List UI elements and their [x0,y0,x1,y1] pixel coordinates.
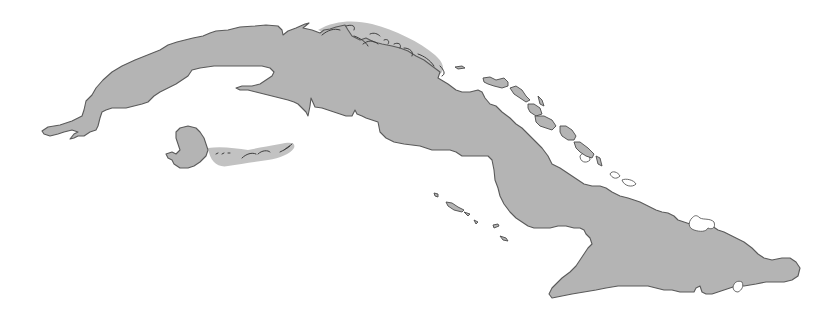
north-coast-lagoon-1 [610,172,620,178]
main-island [42,23,800,298]
isla-de-la-juventud [166,126,208,168]
guantanamo-inlet [733,281,743,292]
nipe-bay [689,216,714,232]
cuba-map [0,0,840,318]
north-coast-lagoon-2 [622,179,636,186]
jardines-de-la-reina [434,193,508,241]
map-canvas: Cuba [0,0,840,318]
canarreos-shelf [208,143,294,167]
